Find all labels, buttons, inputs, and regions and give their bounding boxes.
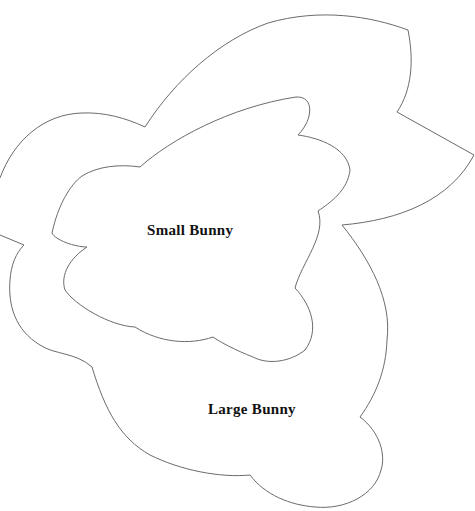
bunny-template-drawing [0,0,475,511]
small-bunny-label: Small Bunny [147,222,233,239]
large-bunny-label: Large Bunny [208,401,296,418]
